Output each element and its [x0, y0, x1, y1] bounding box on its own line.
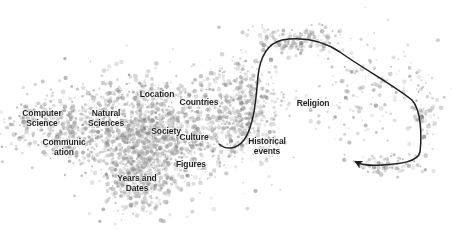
label-historical-events: Historical events [248, 136, 286, 156]
label-culture: Culture [179, 132, 208, 142]
label-religion: Religion [297, 98, 330, 108]
label-natural-sciences: Natural Sciences [88, 108, 124, 128]
label-society: Society [151, 126, 181, 136]
label-location: Location [140, 89, 175, 99]
label-computer-science: Computer Science [22, 108, 61, 128]
scatter-points [0, 0, 452, 231]
embedding-chart: Computer Science Natural Sciences Commun… [0, 0, 452, 231]
label-communication: Communic ation [42, 137, 85, 157]
label-years-and-dates: Years and Dates [117, 173, 156, 193]
label-figures: Figures [176, 159, 206, 169]
label-countries: Countries [180, 97, 219, 107]
